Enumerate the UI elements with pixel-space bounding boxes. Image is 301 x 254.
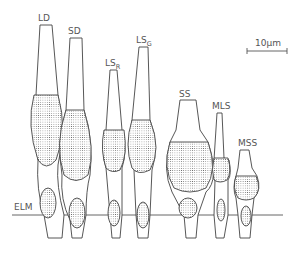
cell-ss: [166, 100, 213, 238]
label-elm: ELM: [14, 202, 32, 212]
label-ls-g: LSG: [136, 35, 152, 48]
label-mss: MSS: [238, 138, 257, 148]
label-sd: SD: [68, 26, 81, 36]
label-mls: MLS: [212, 101, 231, 111]
cell-mls: [213, 113, 231, 238]
cell-ls-r: [102, 70, 125, 238]
label-ld: LD: [38, 13, 50, 23]
cell-ld: [31, 25, 64, 238]
cell-sd: [59, 38, 91, 238]
scale-bar-label: 10µm: [255, 38, 281, 48]
cell-ls-g: [128, 47, 156, 238]
scale-bar: 10µm: [247, 38, 287, 54]
label-ls-r: LSR: [105, 58, 121, 71]
label-ss: SS: [179, 89, 191, 99]
cell-mss: [234, 150, 259, 238]
photoreceptor-diagram: LD SD LSR LSG SS MLS MSS ELM 10µm: [0, 0, 301, 254]
